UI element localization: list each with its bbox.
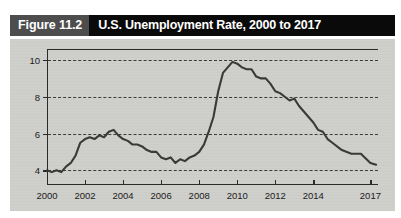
chart-panel: 46810 2000200220042006200820102012201420… bbox=[10, 39, 395, 211]
x-axis-tick-label: 2000 bbox=[36, 190, 57, 201]
y-axis-tick-label: 6 bbox=[35, 128, 40, 139]
x-axis-tick-label: 2010 bbox=[227, 190, 248, 201]
x-axis-tick-label: 2017 bbox=[360, 190, 381, 201]
x-axis-tick-label: 2004 bbox=[113, 190, 134, 201]
x-axis-tick-label: 2014 bbox=[303, 190, 324, 201]
plot-area: 46810 2000200220042006200820102012201420… bbox=[47, 49, 378, 185]
y-axis-tick-label: 8 bbox=[35, 91, 40, 102]
x-axis-tick-label: 2002 bbox=[74, 190, 95, 201]
unemployment-rate-line bbox=[47, 62, 376, 172]
x-axis-tick-label: 2008 bbox=[189, 190, 210, 201]
figure-title-text: U.S. Unemployment Rate, 2000 to 2017 bbox=[89, 15, 395, 36]
y-axis-tick-label: 10 bbox=[29, 55, 40, 66]
figure-title-bar: Figure 11.2 U.S. Unemployment Rate, 2000… bbox=[10, 15, 395, 36]
y-axis-tick-label: 4 bbox=[35, 165, 40, 176]
x-axis-tick-label: 2012 bbox=[265, 190, 286, 201]
x-axis-tick-label: 2006 bbox=[151, 190, 172, 201]
series-chart bbox=[47, 49, 378, 185]
figure-container: Figure 11.2 U.S. Unemployment Rate, 2000… bbox=[0, 0, 401, 218]
figure-number-label: Figure 11.2 bbox=[10, 15, 89, 36]
